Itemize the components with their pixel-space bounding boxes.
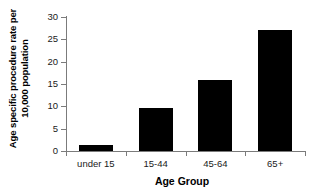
- bar: [258, 30, 292, 151]
- x-axis-tick: [126, 151, 127, 156]
- x-axis-category-label: 65+: [245, 158, 305, 169]
- x-axis-tick: [245, 151, 246, 156]
- y-axis-tick-label: 25: [36, 34, 58, 44]
- y-axis-tick-label: 30: [36, 12, 58, 22]
- x-axis-category-label: 45-64: [186, 158, 246, 169]
- x-axis-tick: [66, 151, 67, 156]
- y-axis-tick-label: 10: [36, 101, 58, 111]
- x-axis-category-label: under 15: [66, 158, 126, 169]
- plot-area: [66, 17, 305, 151]
- bar: [79, 145, 113, 151]
- x-axis-title: Age Group: [0, 175, 322, 187]
- y-axis-tick-label: 5: [36, 124, 58, 134]
- y-axis-tick-label: 20: [36, 57, 58, 67]
- x-axis-category-label: 15-44: [126, 158, 186, 169]
- bar: [139, 108, 173, 151]
- x-axis-tick: [305, 151, 306, 156]
- y-axis-tick-label: 0: [36, 146, 58, 156]
- y-axis-tick-label: 15: [36, 79, 58, 89]
- bar-chart: Age specific procedure rate per 10,000 p…: [0, 0, 322, 196]
- bar: [198, 80, 232, 151]
- x-axis-tick: [186, 151, 187, 156]
- y-axis-title: Age specific procedure rate per 10,000 p…: [7, 0, 30, 159]
